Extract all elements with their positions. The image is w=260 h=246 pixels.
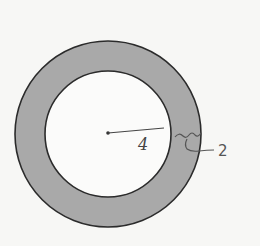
inner-radius-label: 4 xyxy=(137,135,148,154)
ring-width-label: 2 xyxy=(218,142,228,160)
annulus-diagram: 4 2 xyxy=(0,0,260,246)
